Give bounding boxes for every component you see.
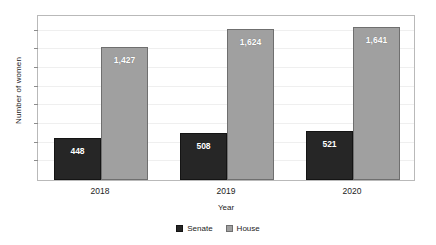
- legend-item-house[interactable]: House: [226, 224, 260, 233]
- x-axis-tick-label-2019: 2019: [196, 186, 256, 196]
- y-axis-title: Number of women: [0, 0, 36, 181]
- x-axis-tick-label-2020: 2020: [322, 186, 382, 196]
- bar-value-label: 521: [322, 139, 336, 179]
- bar-value-label: 448: [70, 146, 84, 179]
- bar-senate-2018: 448: [54, 138, 101, 180]
- legend-swatch-icon: [226, 225, 233, 232]
- bar-chart: Number of women 4481,4275081,6245211,641…: [0, 0, 436, 245]
- bar-house-2020: 1,641: [353, 27, 400, 180]
- plot-area: 4481,4275081,6245211,641: [37, 15, 415, 181]
- legend-label: House: [237, 224, 260, 233]
- bar-house-2018: 1,427: [101, 47, 148, 180]
- bar-value-label: 1,427: [114, 55, 135, 179]
- y-axis-title-text: Number of women: [14, 57, 23, 124]
- x-axis-tick-label-2018: 2018: [70, 186, 130, 196]
- bar-value-label: 508: [196, 141, 210, 179]
- chart-legend: SenateHouse: [0, 224, 436, 233]
- bar-value-label: 1,641: [366, 35, 387, 179]
- bar-senate-2019: 508: [180, 133, 227, 180]
- legend-label: Senate: [187, 224, 212, 233]
- bar-house-2019: 1,624: [227, 29, 274, 180]
- bar-senate-2020: 521: [306, 131, 353, 180]
- x-axis-title: Year: [37, 203, 415, 212]
- bars-layer: 4481,4275081,6245211,641: [38, 16, 414, 180]
- bar-value-label: 1,624: [240, 37, 261, 179]
- legend-item-senate[interactable]: Senate: [176, 224, 212, 233]
- legend-swatch-icon: [176, 225, 183, 232]
